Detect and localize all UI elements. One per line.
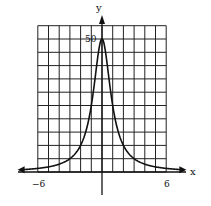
y-tick-50: 50 [85, 34, 96, 44]
x-tick-pos6: 6 [164, 179, 170, 189]
x-tick-neg6: −6 [32, 179, 45, 189]
x-axis-label: x [190, 166, 196, 177]
y-axis-label: y [96, 2, 102, 13]
chart-plot [0, 0, 211, 206]
y-axis-arrow-icon [99, 15, 105, 24]
